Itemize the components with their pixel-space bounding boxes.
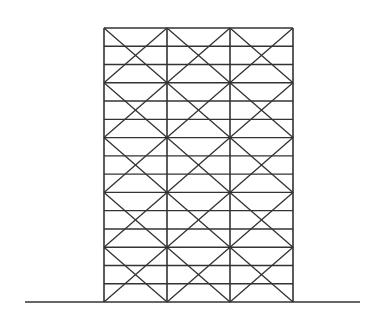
floor-beams <box>104 28 293 284</box>
x-braces <box>104 28 293 302</box>
braced-frame-diagram <box>0 0 369 319</box>
